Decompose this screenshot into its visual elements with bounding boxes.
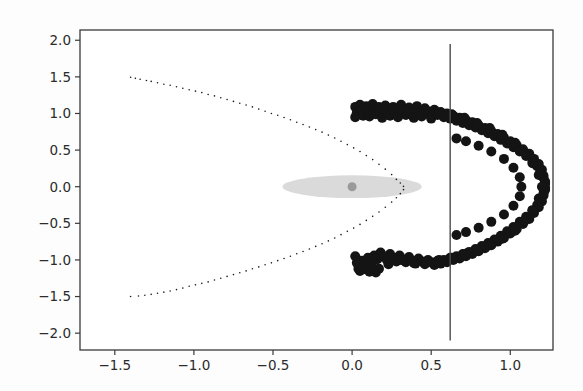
data-point — [459, 249, 469, 259]
y-tick-label: −1.0 — [38, 252, 71, 268]
data-point — [534, 193, 544, 203]
data-point — [353, 227, 355, 229]
data-point — [434, 108, 444, 118]
data-point — [296, 253, 298, 255]
x-tick-label: −1.0 — [178, 357, 211, 373]
data-point — [402, 106, 412, 116]
data-point — [163, 291, 165, 293]
data-point — [277, 260, 279, 262]
data-point — [220, 97, 222, 99]
data-point — [497, 130, 507, 140]
data-point — [391, 201, 393, 203]
data-point — [290, 255, 292, 257]
data-point — [459, 113, 469, 123]
center-marker — [348, 182, 357, 191]
data-point — [472, 118, 482, 128]
data-point — [169, 84, 171, 86]
data-point — [474, 141, 484, 151]
data-point — [527, 205, 537, 215]
data-point — [252, 106, 254, 108]
data-point — [176, 289, 178, 291]
data-point — [372, 216, 374, 218]
data-point — [396, 197, 398, 199]
data-point — [163, 83, 165, 85]
data-point — [340, 141, 342, 143]
y-tick-label: 0.5 — [50, 142, 71, 158]
y-tick-label: 1.5 — [50, 69, 71, 85]
data-point — [271, 262, 273, 264]
data-point — [347, 231, 349, 233]
data-point — [157, 82, 159, 84]
data-point — [258, 108, 260, 110]
data-point — [472, 245, 482, 255]
data-point — [309, 126, 311, 128]
data-point — [188, 89, 190, 91]
data-point — [391, 174, 393, 176]
data-point — [207, 281, 209, 283]
data-point — [385, 168, 387, 170]
data-point — [135, 78, 137, 80]
data-point — [461, 227, 471, 237]
data-point — [214, 279, 216, 281]
data-point — [328, 240, 330, 242]
data-point — [220, 277, 222, 279]
data-point — [146, 80, 148, 82]
data-point — [130, 76, 132, 78]
data-point — [176, 86, 178, 88]
data-point — [497, 234, 507, 244]
data-point — [452, 230, 462, 240]
data-point — [516, 182, 526, 192]
data-point — [233, 274, 235, 276]
data-point — [372, 159, 374, 161]
data-point — [277, 115, 279, 117]
data-point — [520, 216, 530, 226]
y-tick-label: −2.0 — [38, 325, 71, 341]
y-tick-label: −1.5 — [38, 288, 71, 304]
data-point — [537, 182, 547, 192]
data-point — [207, 94, 209, 96]
data-point — [359, 151, 361, 153]
data-point — [245, 270, 247, 272]
data-point — [157, 292, 159, 294]
data-point — [499, 210, 509, 220]
data-point — [283, 117, 285, 119]
data-point — [182, 87, 184, 89]
data-point — [366, 155, 368, 157]
data-point — [485, 240, 495, 250]
data-point — [485, 123, 495, 133]
data-point — [510, 138, 520, 148]
data-point — [350, 251, 360, 261]
data-point — [534, 170, 544, 180]
data-point — [421, 106, 431, 116]
data-point — [447, 109, 457, 119]
data-point — [378, 164, 380, 166]
data-point — [508, 163, 518, 173]
data-point — [290, 119, 292, 121]
x-tick-label: 1.0 — [500, 357, 521, 373]
data-point — [201, 92, 203, 94]
data-point — [315, 246, 317, 248]
data-point — [353, 147, 355, 149]
data-point — [169, 290, 171, 292]
data-point — [452, 133, 462, 143]
data-point — [245, 104, 247, 106]
x-tick-label: −0.5 — [257, 357, 290, 373]
y-tick-label: 0.0 — [50, 179, 71, 195]
data-point — [340, 234, 342, 236]
data-point — [195, 284, 197, 286]
data-point — [409, 258, 419, 268]
data-point — [396, 179, 398, 181]
figure-canvas: −1.5−1.0−0.50.00.51.02.01.51.00.50.0−0.5… — [0, 0, 583, 391]
data-point — [309, 248, 311, 250]
data-point — [321, 243, 323, 245]
data-point — [510, 226, 520, 236]
data-point — [302, 124, 304, 126]
data-point — [486, 147, 496, 157]
data-point — [182, 287, 184, 289]
data-point — [400, 193, 402, 195]
data-point — [403, 186, 405, 188]
data-point — [383, 259, 393, 269]
data-point — [150, 294, 152, 296]
data-point — [315, 129, 317, 131]
data-point — [474, 223, 484, 233]
